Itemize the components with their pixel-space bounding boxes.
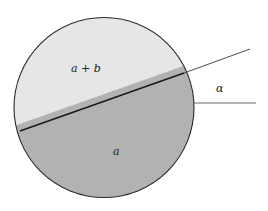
extension-line	[184, 49, 250, 73]
circle-chord-diagram: a + b a α	[0, 0, 268, 211]
label-lower-region: a	[113, 145, 120, 158]
label-angle-alpha: α	[216, 82, 224, 95]
label-upper-region: a + b	[71, 62, 101, 75]
